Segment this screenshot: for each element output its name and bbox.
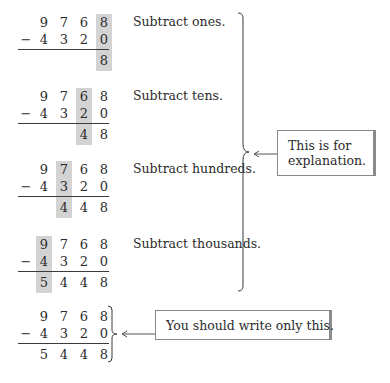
minus-sign: − (20, 105, 32, 122)
digit: 9 (36, 236, 52, 253)
cut-off-header-text (0, 0, 390, 5)
subtrahend-row: − 4 3 2 0 (18, 325, 110, 342)
subtrahend-row: − 4 3 2 0 (18, 31, 110, 48)
digit: 9 (36, 161, 52, 178)
result-row: 5 4 4 8 (18, 274, 110, 291)
minuend-row: 9 7 6 8 (18, 88, 110, 105)
digit: 3 (56, 31, 72, 48)
digit: 3 (56, 253, 72, 270)
minuend-row: 9 7 6 8 (18, 308, 110, 325)
step-tens-block: 9 7 6 8 − 4 3 2 0 4 8 (18, 88, 110, 148)
digit: 7 (56, 161, 72, 178)
subtrahend-row: − 4 3 2 0 (18, 178, 110, 195)
digit: 0 (96, 253, 112, 270)
digit: 0 (96, 105, 112, 122)
digit: 4 (76, 346, 92, 363)
final-brace-icon (108, 305, 118, 363)
digit: 3 (56, 105, 72, 122)
write-only-callout: You should write only this. (155, 310, 332, 340)
minuend-row: 9 7 6 8 (18, 14, 110, 31)
digit: 8 (96, 126, 112, 143)
subtrahend-row: − 4 3 2 0 (18, 253, 110, 270)
digit: 7 (56, 308, 72, 325)
digit: 4 (56, 199, 72, 216)
digit: 8 (96, 88, 112, 105)
digit: 2 (76, 325, 92, 342)
digit: 8 (96, 14, 112, 31)
sum-rule (18, 49, 109, 50)
digit: 2 (76, 31, 92, 48)
step-hundreds-block: 9 7 6 8 − 4 3 2 0 4 4 8 (18, 161, 110, 221)
digit: 8 (96, 52, 112, 69)
result-row: 4 8 (18, 126, 110, 143)
digit: 0 (96, 178, 112, 195)
digit: 6 (76, 161, 92, 178)
digit: 8 (96, 199, 112, 216)
digit: 6 (76, 88, 92, 105)
final-block: 9 7 6 8 − 4 3 2 0 5 4 4 8 (18, 308, 110, 368)
minus-sign: − (20, 253, 32, 270)
result-row: 8 (18, 52, 110, 69)
result-row: 5 4 4 8 (18, 346, 110, 363)
digit: 7 (56, 88, 72, 105)
sum-rule (18, 343, 109, 344)
digit: 6 (76, 308, 92, 325)
digit: 6 (76, 14, 92, 31)
digit: 4 (36, 253, 52, 270)
digit: 4 (36, 178, 52, 195)
digit: 4 (76, 126, 92, 143)
arrow-left-icon (120, 330, 156, 338)
callout-line: This is for (288, 138, 363, 153)
digit: 4 (56, 274, 72, 291)
sum-rule (18, 271, 109, 272)
digit: 4 (76, 274, 92, 291)
arrow-left-icon (252, 150, 278, 158)
digit: 7 (56, 14, 72, 31)
explanation-brace-icon (238, 12, 250, 292)
digit: 8 (96, 236, 112, 253)
digit: 6 (76, 236, 92, 253)
digit: 9 (36, 308, 52, 325)
digit: 5 (36, 274, 52, 291)
minus-sign: − (20, 31, 32, 48)
digit: 5 (36, 346, 52, 363)
explanation-callout: This is for explanation. (277, 130, 376, 176)
digit: 0 (96, 31, 112, 48)
digit: 4 (36, 31, 52, 48)
digit: 2 (76, 105, 92, 122)
digit: 9 (36, 14, 52, 31)
step-thousands-block: 9 7 6 8 − 4 3 2 0 5 4 4 8 (18, 236, 110, 296)
digit: 4 (76, 199, 92, 216)
digit: 3 (56, 325, 72, 342)
digit: 8 (96, 274, 112, 291)
digit: 2 (76, 253, 92, 270)
subtrahend-row: − 4 3 2 0 (18, 105, 110, 122)
callout-line: explanation. (288, 153, 363, 168)
result-row: 4 4 8 (18, 199, 110, 216)
digit: 4 (36, 105, 52, 122)
step-ones-block: 9 7 6 8 − 4 3 2 0 8 (18, 14, 110, 74)
minus-sign: − (20, 178, 32, 195)
minuend-row: 9 7 6 8 (18, 161, 110, 178)
sum-rule (18, 196, 109, 197)
digit: 4 (36, 325, 52, 342)
digit: 2 (76, 178, 92, 195)
minuend-row: 9 7 6 8 (18, 236, 110, 253)
digit: 3 (56, 178, 72, 195)
step-label: Subtract tens. (133, 88, 223, 103)
digit: 7 (56, 236, 72, 253)
digit: 8 (96, 161, 112, 178)
minus-sign: − (20, 325, 32, 342)
sum-rule (18, 123, 109, 124)
step-label: Subtract ones. (133, 14, 225, 29)
digit: 4 (56, 346, 72, 363)
digit: 9 (36, 88, 52, 105)
